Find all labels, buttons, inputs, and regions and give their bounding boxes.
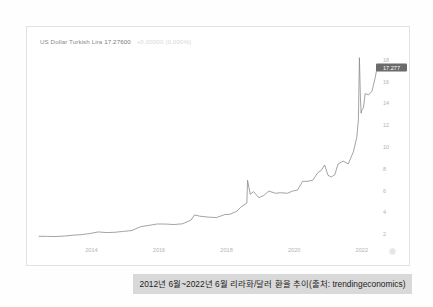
x-axis-tick: 2018 bbox=[220, 247, 232, 253]
chart-title-instrument: US Dollar Turkish Lira bbox=[40, 38, 102, 45]
plot-area bbox=[39, 49, 377, 245]
x-axis-tick: 2016 bbox=[153, 247, 165, 253]
x-axis-tick: 2020 bbox=[288, 247, 300, 253]
y-axis-tick: 18 bbox=[383, 57, 389, 63]
x-axis: 20142016201820202022 bbox=[39, 247, 377, 259]
x-axis-tick: 2014 bbox=[85, 247, 97, 253]
y-axis-tick: 12 bbox=[383, 122, 389, 128]
screenshot-stage: US Dollar Turkish Lira 17.27600 +0.00000… bbox=[0, 0, 433, 307]
y-axis-tick: 14 bbox=[383, 100, 389, 106]
y-axis-tick: 6 bbox=[383, 188, 386, 194]
last-price-badge: 17.277 bbox=[376, 63, 407, 72]
y-axis-tick: 4 bbox=[383, 209, 386, 215]
logo-watermark-icon bbox=[389, 248, 396, 255]
figure-caption: 2012년 6월~2022년 6월 리라화/달러 환율 추이(출처: trend… bbox=[133, 274, 412, 294]
y-axis-tick: 16 bbox=[383, 79, 389, 85]
y-axis: 24681012141618 bbox=[379, 49, 409, 245]
y-axis-tick: 2 bbox=[383, 231, 386, 237]
x-axis-tick: 2022 bbox=[356, 247, 368, 253]
chart-title: US Dollar Turkish Lira 17.27600 +0.00000… bbox=[40, 38, 191, 45]
y-axis-tick: 8 bbox=[383, 166, 386, 172]
price-line-chart bbox=[39, 49, 377, 245]
y-axis-tick: 10 bbox=[383, 144, 389, 150]
series-usdtry-line bbox=[39, 58, 377, 237]
chart-title-change: +0.00000 (0.000%) bbox=[137, 38, 192, 45]
chart-panel: US Dollar Turkish Lira 17.27600 +0.00000… bbox=[26, 26, 410, 266]
chart-title-price: 17.27600 bbox=[104, 38, 131, 45]
